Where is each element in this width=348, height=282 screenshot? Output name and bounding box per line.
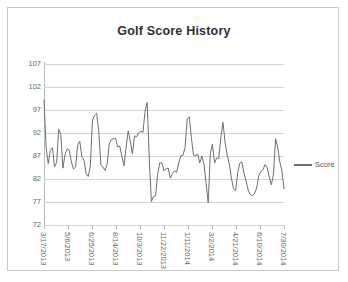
- x-tick-label: 5/6/2013: [63, 232, 71, 261]
- x-tick: [284, 225, 285, 229]
- x-tick: [164, 225, 165, 229]
- x-tick: [212, 225, 213, 229]
- x-tick-label: 7/30/2014: [279, 232, 287, 265]
- chart-title: Golf Score History: [8, 24, 340, 38]
- x-tick-label: 6/25/2013: [87, 232, 95, 265]
- x-tick-label: 10/3/2013: [135, 232, 143, 265]
- y-tick-label: 72: [11, 221, 41, 229]
- x-tick-label: 3/2/2014: [207, 232, 215, 261]
- x-tick: [140, 225, 141, 229]
- x-tick-label: 3/17/2013: [39, 232, 47, 265]
- x-tick: [236, 225, 237, 229]
- chart-legend: Score: [294, 160, 335, 169]
- x-tick-label: 8/14/2013: [111, 232, 119, 265]
- x-tick: [188, 225, 189, 229]
- x-tick-label: 11/22/2013: [159, 232, 167, 269]
- chart-frame: Golf Score History 727782879297102107 3/…: [7, 7, 339, 271]
- y-tick-label: 107: [11, 60, 41, 68]
- y-tick-label: 92: [11, 129, 41, 137]
- plot-area: [44, 64, 284, 225]
- x-tick-label: 4/21/2014: [231, 232, 239, 265]
- legend-line-swatch: [294, 164, 312, 166]
- x-tick: [44, 225, 45, 229]
- x-tick: [68, 225, 69, 229]
- y-tick-label: 87: [11, 152, 41, 160]
- x-tick-label: 6/10/2014: [255, 232, 263, 265]
- y-tick-label: 97: [11, 106, 41, 114]
- x-tick: [92, 225, 93, 229]
- y-axis-labels: 727782879297102107: [8, 64, 41, 225]
- x-tick-label: 1/11/2014: [183, 232, 191, 265]
- legend-label-score: Score: [315, 160, 335, 169]
- y-tick-label: 77: [11, 198, 41, 206]
- x-tick: [260, 225, 261, 229]
- x-tick: [116, 225, 117, 229]
- y-tick-label: 82: [11, 175, 41, 183]
- score-line-series: [44, 64, 284, 225]
- y-tick-label: 102: [11, 83, 41, 91]
